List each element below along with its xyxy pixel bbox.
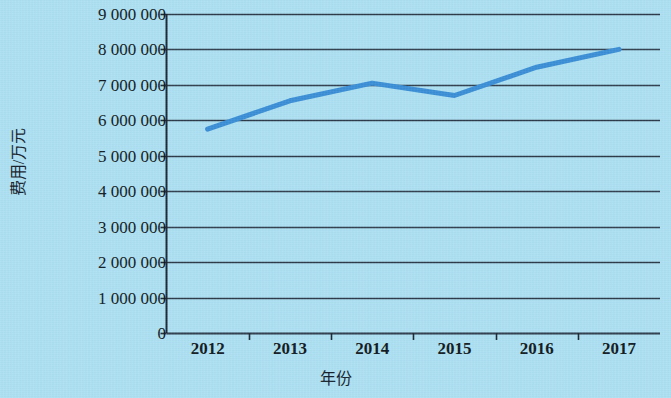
x-axis-tick-labels: 201220132014201520162017 xyxy=(0,0,671,398)
x-tick-label: 2012 xyxy=(163,339,253,359)
line-chart: 01 000 0002 000 0003 000 0004 000 0005 0… xyxy=(0,0,671,398)
x-axis-title: 年份 xyxy=(0,365,671,389)
x-tick-label: 2014 xyxy=(327,339,417,359)
x-tick-label: 2017 xyxy=(574,339,664,359)
x-tick-label: 2013 xyxy=(245,339,335,359)
y-axis-title: 费用/万元 xyxy=(5,117,29,207)
x-tick-label: 2015 xyxy=(409,339,499,359)
x-tick-label: 2016 xyxy=(492,339,582,359)
